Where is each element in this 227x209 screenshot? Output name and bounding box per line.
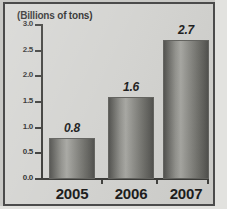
x-axis-tick-mark <box>207 180 209 184</box>
y-axis-tick-label: 2.5 <box>5 45 33 54</box>
plot-area: 3.02.52.01.51.00.50.0 0.81.62.7 20052006… <box>5 4 217 208</box>
y-axis-tick-label: 0.5 <box>5 147 33 156</box>
bar-value-label: 1.6 <box>102 80 160 94</box>
bar-value-label: 0.8 <box>43 121 101 135</box>
x-axis-category-label: 2005 <box>39 185 105 202</box>
x-axis-category-label: 2007 <box>153 185 219 202</box>
y-axis-tick-label: 0.0 <box>5 173 33 182</box>
y-axis-tick-mark <box>35 75 42 77</box>
bar <box>108 97 154 179</box>
y-axis-tick-mark <box>35 50 42 52</box>
bar <box>163 40 209 179</box>
bar-value-label: 2.7 <box>157 23 215 37</box>
y-axis-tick-label: 1.0 <box>5 122 33 131</box>
y-axis-tick-mark <box>35 127 42 129</box>
y-axis-tick-label: 1.5 <box>5 96 33 105</box>
bar <box>49 138 95 179</box>
chart-frame: (Billions of tons) 3.02.52.01.51.00.50.0… <box>3 2 215 206</box>
y-axis-tick-label: 2.0 <box>5 70 33 79</box>
y-axis-tick-mark <box>35 152 42 154</box>
chart-figure: (Billions of tons) 3.02.52.01.51.00.50.0… <box>0 0 227 209</box>
y-axis-tick-mark <box>35 101 42 103</box>
y-axis-tick-mark <box>35 24 42 26</box>
y-axis-tick-mark <box>35 178 42 180</box>
x-axis-tick-mark <box>156 180 158 184</box>
x-axis-tick-mark <box>101 180 103 184</box>
y-axis-tick-label: 3.0 <box>5 19 33 28</box>
